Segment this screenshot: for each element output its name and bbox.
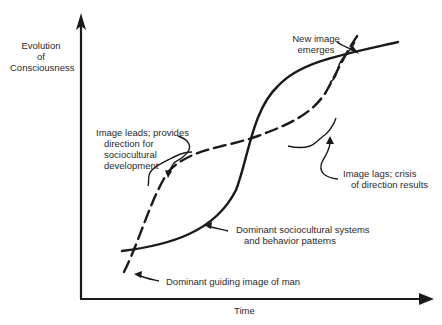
y-axis-label-line: Evolution: [10, 40, 72, 51]
annotation-line: Image leads; provides: [96, 127, 189, 138]
annotation-line: Dominant sociocultural systems: [236, 224, 370, 235]
annotation-line: sociocultural: [96, 149, 189, 160]
arrowhead-icon: [326, 136, 334, 144]
annotation-guiding-image: Dominant guiding image of man: [166, 276, 300, 287]
annotation-image-lags: Image lags; crisis of direction results: [343, 168, 428, 190]
annotation-line: New image: [288, 33, 344, 44]
annotation-line: and behavior patterns: [236, 235, 370, 246]
annotation-image-leads: Image leads; provides direction for soci…: [96, 127, 189, 171]
annotation-line: Image lags; crisis: [343, 168, 428, 179]
y-axis-label-line: of: [10, 51, 72, 62]
annotation-line: emerges: [288, 44, 344, 55]
y-axis-label: Evolution of Consciousness: [10, 40, 72, 73]
x-axis-arrow-icon: [419, 293, 434, 305]
annotation-line: development: [96, 160, 189, 171]
arrowhead-icon: [165, 170, 172, 178]
y-axis-label-line: Consciousness: [10, 62, 72, 73]
annotation-new-image: New image emerges: [288, 33, 344, 55]
arrowhead-icon: [134, 271, 142, 278]
annotation-line: direction for: [96, 138, 189, 149]
annotation-line: of direction results: [343, 179, 428, 190]
x-axis-label: Time: [234, 305, 255, 316]
annotation-sociocultural: Dominant sociocultural systems and behav…: [236, 224, 370, 246]
